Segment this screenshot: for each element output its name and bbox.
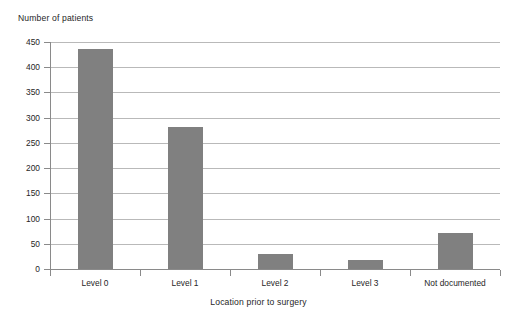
y-axis-tick-label: 0 — [0, 264, 40, 274]
x-axis-tick — [500, 270, 501, 276]
x-axis-category-label: Level 1 — [140, 278, 230, 288]
y-axis-title: Number of patients — [18, 13, 93, 23]
bar — [78, 49, 113, 269]
x-axis-tick — [320, 270, 321, 276]
x-axis-line — [50, 269, 500, 270]
x-axis-tick — [140, 270, 141, 276]
x-axis-category-label: Level 3 — [320, 278, 410, 288]
y-axis-tick-label: 200 — [0, 163, 40, 173]
y-axis-tick-label: 100 — [0, 214, 40, 224]
y-axis-tick-label: 150 — [0, 188, 40, 198]
y-axis-tick-label: 350 — [0, 87, 40, 97]
x-axis-category-label: Level 2 — [230, 278, 320, 288]
bar-chart: Number of patients 050100150200250300350… — [0, 0, 517, 325]
y-axis-tick-label: 50 — [0, 239, 40, 249]
x-axis-category-label: Not documented — [410, 278, 500, 288]
x-axis-tick — [410, 270, 411, 276]
y-axis-tick-label: 400 — [0, 62, 40, 72]
bar — [438, 233, 473, 269]
y-axis-tick-label: 450 — [0, 37, 40, 47]
bar — [168, 127, 203, 269]
x-axis-tick — [50, 270, 51, 276]
x-axis-tick — [230, 270, 231, 276]
bar — [258, 254, 293, 269]
y-axis-tick-label: 300 — [0, 113, 40, 123]
x-axis-title: Location prior to surgery — [0, 297, 517, 307]
x-axis-category-label: Level 0 — [50, 278, 140, 288]
y-axis-tick-label: 250 — [0, 138, 40, 148]
bar — [348, 260, 383, 269]
plot-area — [50, 42, 500, 269]
